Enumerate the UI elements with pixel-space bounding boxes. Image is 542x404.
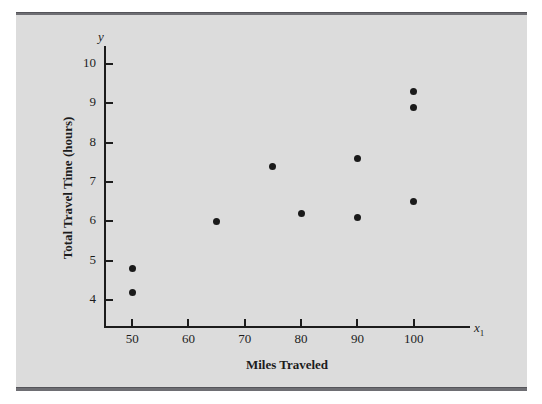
figure-page: y x1 Total Travel Time (hours) Miles Tra… <box>0 0 542 404</box>
figure-panel <box>16 15 527 387</box>
bottom-rule <box>16 387 527 391</box>
